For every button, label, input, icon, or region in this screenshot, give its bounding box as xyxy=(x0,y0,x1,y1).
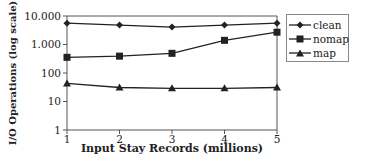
legend-label: map xyxy=(313,47,336,59)
legend-item-map: map xyxy=(289,46,336,60)
diamond-marker-icon xyxy=(221,22,228,29)
y-tick-label: 10 xyxy=(48,95,61,107)
series-map xyxy=(63,79,281,91)
legend: clean nomap map xyxy=(286,14,349,62)
legend-item-clean: clean xyxy=(289,18,341,32)
diamond-marker-icon xyxy=(289,20,311,30)
square-marker-icon xyxy=(116,53,123,60)
x-axis-label: Input Stay Records (millions) xyxy=(81,142,263,155)
diamond-marker-icon xyxy=(116,22,123,29)
diamond-marker-icon xyxy=(169,24,176,31)
y-tick-label: 10.000 xyxy=(24,10,61,22)
y-tick-label: 1 xyxy=(54,124,61,136)
legend-label: clean xyxy=(313,19,341,31)
x-tick-label: 1 xyxy=(64,133,71,145)
y-axis-label: I/O Operations (log scale) xyxy=(7,1,18,146)
diamond-marker-icon xyxy=(64,20,71,27)
square-marker-icon xyxy=(221,37,228,44)
square-marker-icon xyxy=(64,54,71,61)
legend-item-nomap: nomap xyxy=(289,32,349,46)
diamond-marker-icon xyxy=(274,20,281,27)
series-nomap xyxy=(64,29,281,61)
y-tick-label: 100 xyxy=(41,67,61,79)
x-tick-label: 5 xyxy=(274,133,281,145)
series-clean xyxy=(64,20,281,31)
legend-label: nomap xyxy=(313,33,349,45)
square-marker-icon xyxy=(169,50,176,57)
triangle-marker-icon xyxy=(289,48,311,58)
square-marker-icon xyxy=(289,34,311,44)
y-tick-label: 1.000 xyxy=(31,38,61,50)
triangle-marker-icon xyxy=(63,79,71,86)
square-marker-icon xyxy=(274,29,281,36)
